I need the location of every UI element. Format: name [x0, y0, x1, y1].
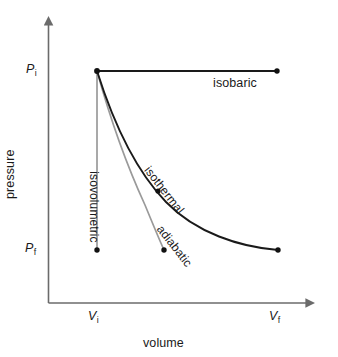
point-marker-isovolumetric-end — [94, 247, 99, 252]
curve-label-isobaric: isobaric — [213, 77, 257, 90]
curve-label-isovolumetric: isovolumetric — [88, 171, 100, 242]
curve-isothermal — [97, 71, 278, 250]
x-axis-title: volume — [143, 337, 184, 350]
plot-canvas — [0, 0, 338, 357]
point-marker-isobaric-end — [274, 68, 279, 73]
x-tick-label-vf: Vf — [269, 310, 280, 323]
y-axis-title: pressure — [4, 150, 17, 199]
y-tick-label-pi: Pi — [26, 63, 37, 76]
point-marker-adiabatic-end — [161, 247, 166, 252]
point-marker-start — [94, 68, 100, 74]
pv-diagram-figure: Pi Pf Vi Vf volume pressure isobaric iso… — [0, 0, 338, 357]
point-marker-isothermal-end — [275, 247, 280, 252]
y-tick-label-pf: Pf — [25, 242, 36, 255]
x-tick-label-vi: Vi — [88, 310, 99, 323]
